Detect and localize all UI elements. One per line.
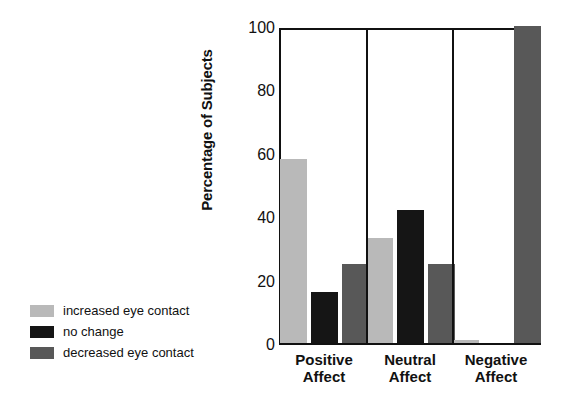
legend-item: increased eye contact <box>30 301 194 320</box>
category-label-line: Affect <box>367 368 453 385</box>
y-tick-label-100: 100 <box>229 20 275 36</box>
y-tick-label-0: 0 <box>229 337 275 353</box>
category-label-line: Positive <box>281 351 367 368</box>
category-label-line: Neutral <box>367 351 453 368</box>
group-separator <box>366 30 368 343</box>
group-separator <box>452 30 454 343</box>
legend-label: increased eye contact <box>63 303 189 318</box>
category-label: NegativeAffect <box>453 351 539 385</box>
bar <box>366 238 393 343</box>
category-label-line: Negative <box>453 351 539 368</box>
legend-swatch-nochange <box>30 326 54 338</box>
legend-swatch-increased <box>30 305 54 317</box>
bar <box>311 292 338 343</box>
legend-label: no change <box>63 324 124 339</box>
bar <box>428 264 455 343</box>
bar-group <box>281 30 367 343</box>
y-tick-label-20: 20 <box>229 274 275 290</box>
legend: increased eye contactno changedecreased … <box>30 301 194 364</box>
legend-label: decreased eye contact <box>63 345 194 360</box>
y-axis-ticks: 100806040200 <box>225 0 275 409</box>
category-label-line: Affect <box>453 368 539 385</box>
legend-item: decreased eye contact <box>30 343 194 362</box>
bar-group <box>367 30 453 343</box>
bar-chart-figure: Percentage of Subjects 100806040200 Posi… <box>0 0 574 409</box>
bar <box>280 159 307 343</box>
y-axis-title: Percentage of Subjects <box>198 30 220 230</box>
plot-area <box>279 28 541 345</box>
legend-item: no change <box>30 322 194 341</box>
y-tick-label-40: 40 <box>229 210 275 226</box>
category-label: PositiveAffect <box>281 351 367 385</box>
bar-group <box>453 30 539 343</box>
y-tick-label-60: 60 <box>229 147 275 163</box>
category-label-line: Affect <box>281 368 367 385</box>
bar <box>452 340 479 343</box>
y-tick-label-80: 80 <box>229 83 275 99</box>
legend-swatch-decreased <box>30 347 54 359</box>
bar <box>342 264 369 343</box>
bar <box>397 210 424 343</box>
category-label: NeutralAffect <box>367 351 453 385</box>
bar <box>514 26 541 343</box>
